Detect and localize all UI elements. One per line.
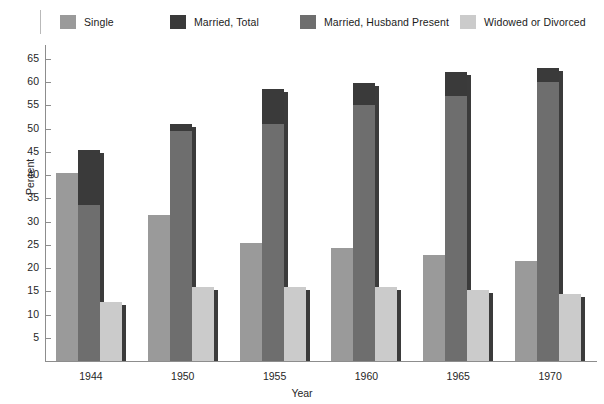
- bar-married-segment: [537, 68, 559, 82]
- x-axis-line: [45, 361, 597, 362]
- bar-married-segment: [262, 89, 284, 124]
- bar-single[interactable]: [423, 255, 445, 361]
- y-tick-mark: [45, 245, 51, 246]
- y-tick-mark: [45, 268, 51, 269]
- x-axis-title: Year: [0, 387, 604, 399]
- y-tick-label: 10: [27, 308, 39, 320]
- bar-widowed-shadow: [397, 290, 401, 361]
- legend-item-label: Married, Total: [194, 16, 259, 28]
- bar-married[interactable]: [170, 124, 192, 361]
- y-tick-mark: [45, 291, 51, 292]
- y-tick-label: 25: [27, 238, 39, 250]
- bar-married-segment: [262, 124, 284, 361]
- bar-widowed-segment: [284, 287, 306, 361]
- bar-widowed[interactable]: [192, 287, 214, 361]
- bar-widowed-segment: [559, 294, 581, 361]
- x-tick-label: 1965: [447, 370, 470, 382]
- bar-married-segment: [170, 131, 192, 361]
- bar-widowed-segment: [100, 302, 122, 361]
- bar-single-segment: [331, 248, 353, 361]
- bar-widowed-shadow: [581, 297, 585, 361]
- bar-married[interactable]: [445, 72, 467, 361]
- bar-married[interactable]: [262, 89, 284, 361]
- bar-widowed-shadow: [306, 290, 310, 361]
- bar-single-segment: [56, 173, 78, 361]
- y-tick-mark: [45, 338, 51, 339]
- y-tick-label: 65: [27, 52, 39, 64]
- x-tick-label: 1950: [171, 370, 194, 382]
- legend-item-label: Married, Husband Present: [324, 16, 449, 28]
- legend-swatch-icon: [60, 15, 76, 29]
- y-tick-label: 40: [27, 168, 39, 180]
- bar-married[interactable]: [78, 150, 100, 361]
- legend-swatch-icon: [460, 15, 476, 29]
- y-tick-mark: [45, 152, 51, 153]
- y-tick-label: 60: [27, 75, 39, 87]
- y-tick-label: 30: [27, 215, 39, 227]
- bar-widowed-segment: [192, 287, 214, 361]
- bar-single[interactable]: [331, 248, 353, 361]
- y-tick-label: 35: [27, 191, 39, 203]
- bar-married-segment: [78, 150, 100, 205]
- y-tick-mark: [45, 129, 51, 130]
- legend-swatch-icon: [300, 15, 316, 29]
- legend-item[interactable]: Married, Husband Present: [300, 8, 449, 36]
- y-tick-mark: [45, 105, 51, 106]
- bar-married-segment: [353, 105, 375, 361]
- bar-widowed[interactable]: [100, 302, 122, 361]
- bar-married-segment: [445, 72, 467, 96]
- bar-married[interactable]: [537, 68, 559, 361]
- y-tick-label: 20: [27, 261, 39, 273]
- legend-item[interactable]: Single: [60, 8, 114, 36]
- y-tick-mark: [45, 175, 51, 176]
- legend-divider: [40, 10, 41, 34]
- bar-single-segment: [148, 215, 170, 361]
- chart-legend: SingleMarried, TotalMarried, Husband Pre…: [40, 8, 596, 36]
- legend-item[interactable]: Widowed or Divorced: [460, 8, 586, 36]
- x-tick-label: 1960: [355, 370, 378, 382]
- bar-widowed-shadow: [214, 290, 218, 361]
- bar-single[interactable]: [56, 173, 78, 361]
- bar-single[interactable]: [148, 215, 170, 361]
- y-tick-label: 15: [27, 284, 39, 296]
- x-tick-label: 1970: [538, 370, 561, 382]
- y-tick-label: 5: [33, 331, 39, 343]
- bar-married-segment: [353, 83, 375, 105]
- bar-single[interactable]: [515, 261, 537, 361]
- y-tick-mark: [45, 222, 51, 223]
- bar-single-segment: [423, 255, 445, 361]
- bar-widowed-shadow: [489, 293, 493, 361]
- y-tick-mark: [45, 315, 51, 316]
- bar-married[interactable]: [353, 83, 375, 361]
- bar-widowed-segment: [375, 287, 397, 361]
- legend-item-label: Single: [84, 16, 114, 28]
- legend-item[interactable]: Married, Total: [170, 8, 259, 36]
- bar-married-segment: [78, 205, 100, 361]
- bar-chart: SingleMarried, TotalMarried, Husband Pre…: [0, 0, 604, 404]
- y-tick-mark: [45, 59, 51, 60]
- x-tick-label: 1955: [263, 370, 286, 382]
- y-tick-label: 45: [27, 145, 39, 157]
- legend-swatch-icon: [170, 15, 186, 29]
- bar-widowed-shadow: [122, 305, 126, 361]
- legend-item-label: Widowed or Divorced: [484, 16, 586, 28]
- bar-married-segment: [170, 124, 192, 131]
- bar-single[interactable]: [240, 243, 262, 361]
- y-tick-mark: [45, 82, 51, 83]
- y-tick-label: 55: [27, 98, 39, 110]
- x-tick-label: 1944: [79, 370, 102, 382]
- y-tick-mark: [45, 198, 51, 199]
- bar-widowed[interactable]: [375, 287, 397, 361]
- bar-married-segment: [537, 82, 559, 361]
- plot-area: Percent 5101520253035404550556065: [45, 45, 596, 361]
- bar-widowed[interactable]: [284, 287, 306, 361]
- y-tick-label: 50: [27, 122, 39, 134]
- bar-married-segment: [445, 96, 467, 361]
- bar-widowed-segment: [467, 290, 489, 361]
- bar-widowed[interactable]: [467, 290, 489, 361]
- bar-widowed[interactable]: [559, 294, 581, 361]
- bar-single-segment: [515, 261, 537, 361]
- bar-single-segment: [240, 243, 262, 361]
